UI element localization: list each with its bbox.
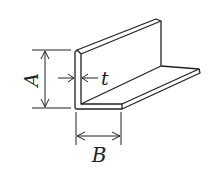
- angle-profile-diagram: A t B: [0, 0, 212, 174]
- angle-profile-body: [75, 19, 200, 109]
- label-a: A: [20, 73, 42, 89]
- front-section-outline: [75, 50, 122, 109]
- vertical-flange-top-edge: [77, 19, 161, 54]
- horizontal-flange-top-edge: [122, 69, 199, 104]
- horizontal-flange-outer-edge: [122, 66, 200, 109]
- inner-corner-line: [81, 66, 161, 104]
- label-t: t: [101, 67, 109, 89]
- label-b: B: [91, 143, 107, 167]
- dimension-t: [58, 74, 98, 82]
- dimension-b: [76, 112, 121, 145]
